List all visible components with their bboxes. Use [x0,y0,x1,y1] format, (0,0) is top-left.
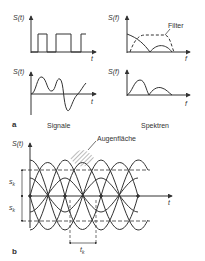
signal-top-x-label: t [91,55,93,63]
level-upper-label: sk [9,178,15,188]
figure-canvas [0,0,205,261]
eye-area-hatch [70,150,94,167]
spectra-caption: Spektren [141,122,169,130]
spectrum-main-lobe [127,34,150,52]
signals-caption: Signale [47,122,70,130]
eye-y-label: S(t) [12,140,23,148]
panel-b-label: b [12,248,17,256]
spectrum-side-lobe [150,46,172,52]
signal-smooth-plot [31,72,96,115]
signal-bottom-y-label: S(t) [13,68,24,76]
spectrum-bottom-x-label: f [185,100,187,108]
signal-bottom-x-label: t [91,98,93,106]
signal-rect-plot [31,16,96,53]
spectrum-filtered-plot [127,70,190,96]
level-lower-label: sk [9,204,15,214]
period-label: tk [80,246,84,256]
filter-label: Filter [168,22,184,30]
eye-diagram [22,141,172,245]
spectrum-top-x-label: f [185,55,187,63]
spectrum-bottom-y-label: S(f) [108,68,119,76]
spectrum-top-y-label: S(f) [108,14,119,22]
rect-pulse-curve [31,34,86,52]
filtered-spectrum-curve [127,80,172,95]
signal-top-y-label: S(t) [13,14,24,22]
panel-a-label: a [12,121,16,129]
eye-area-label: Augenfläche [97,135,136,143]
eye-x-label: t [168,199,170,207]
